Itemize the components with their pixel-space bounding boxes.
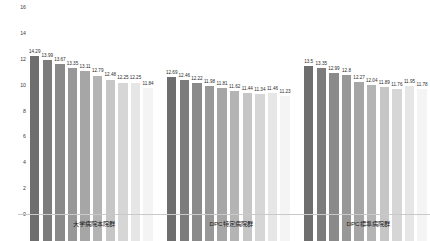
bar-value-label: 11.34 — [254, 88, 265, 93]
bar[interactable] — [143, 88, 152, 241]
bar-value-label: 11.23 — [280, 90, 291, 95]
bar-value-label: 11.84 — [143, 82, 154, 87]
bar-item[interactable]: 11.84 — [143, 26, 152, 241]
bar-value-label: 11.89 — [379, 81, 390, 86]
bar-value-label: 11.95 — [404, 80, 415, 85]
bar-item[interactable]: 12.48 — [106, 26, 115, 241]
bar[interactable] — [367, 85, 376, 241]
bar-item[interactable]: 11.46 — [268, 26, 277, 241]
bar-item[interactable]: 12.22 — [192, 26, 201, 241]
bar-item[interactable]: 13.35 — [68, 26, 77, 241]
bar[interactable] — [417, 89, 426, 241]
bar-item[interactable]: 12.69 — [167, 26, 176, 241]
bar-item[interactable]: 11.62 — [230, 26, 239, 241]
bar-item[interactable]: 12.8 — [342, 26, 351, 241]
bar-value-label: 13.67 — [54, 58, 66, 63]
bar[interactable] — [205, 86, 214, 241]
bar-item[interactable]: 13.67 — [55, 26, 64, 241]
bar[interactable] — [80, 71, 89, 241]
bar-value-label: 12.69 — [166, 71, 178, 76]
bar[interactable] — [68, 68, 77, 241]
bar-value-label: 12.25 — [117, 76, 129, 81]
bar-item[interactable]: 11.81 — [217, 26, 226, 241]
bar-value-label: 12.79 — [92, 69, 104, 74]
bar[interactable] — [329, 73, 338, 241]
group-category-label: 大学病院本院群 — [30, 220, 158, 227]
bar-item[interactable]: 12.25 — [131, 26, 140, 241]
bar-value-label: 13.35 — [316, 62, 328, 67]
bar[interactable] — [217, 88, 226, 241]
bar-item[interactable]: 13.99 — [43, 26, 52, 241]
bar[interactable] — [180, 80, 189, 241]
bar-item[interactable]: 12.46 — [180, 26, 189, 241]
bar[interactable] — [317, 68, 326, 241]
bar-item[interactable]: 13.35 — [317, 26, 326, 241]
bar-item[interactable]: 12.25 — [118, 26, 127, 241]
bar-value-label: 12.25 — [130, 76, 142, 81]
bar-value-label: 14.29 — [29, 50, 41, 55]
bar-item[interactable]: 14.29 — [30, 26, 39, 241]
bar-value-label: 12.27 — [353, 76, 365, 81]
bar[interactable] — [380, 87, 389, 241]
bar[interactable] — [118, 83, 127, 241]
bar-value-label: 11.98 — [204, 80, 215, 85]
bar[interactable] — [192, 83, 201, 241]
bar-value-label: 11.76 — [391, 83, 402, 88]
bar-group: 14.2913.9913.6713.3513.1112.7912.4812.25… — [30, 0, 158, 241]
bar-value-label: 11.46 — [267, 87, 278, 92]
bar[interactable] — [342, 75, 351, 241]
bar-value-label: 13.35 — [67, 62, 79, 67]
plot-area: 14.2913.9913.6713.3513.1112.7912.4812.25… — [18, 0, 430, 241]
bar-group: 13.513.3512.9912.812.2712.0411.8911.7611… — [304, 0, 430, 241]
bar-value-label: 12.48 — [105, 73, 117, 78]
group-category-label: DPC特定病院群 — [167, 220, 295, 227]
bar-item[interactable]: 11.23 — [280, 26, 289, 241]
bar-item[interactable]: 11.95 — [405, 26, 414, 241]
bar[interactable] — [106, 80, 115, 241]
bar-item[interactable]: 12.99 — [329, 26, 338, 241]
bar-item[interactable]: 12.04 — [367, 26, 376, 241]
bar-item[interactable]: 12.27 — [354, 26, 363, 241]
bar-value-label: 13.5 — [304, 60, 313, 65]
bar-value-label: 11.81 — [217, 82, 228, 87]
bar-value-label: 11.62 — [229, 85, 240, 90]
bar-value-label: 13.11 — [80, 65, 91, 70]
bar-value-label: 12.46 — [179, 74, 191, 79]
bar-item[interactable]: 12.79 — [93, 26, 102, 241]
bar-value-label: 12.8 — [342, 69, 351, 74]
bar-value-label: 13.99 — [42, 54, 54, 59]
group-category-label: DPC標準病院群 — [304, 220, 430, 227]
bar[interactable] — [354, 82, 363, 241]
bar[interactable] — [392, 89, 401, 241]
bar[interactable] — [268, 93, 277, 241]
bar[interactable] — [255, 94, 264, 241]
bar-item[interactable]: 11.98 — [205, 26, 214, 241]
bar[interactable] — [230, 91, 239, 241]
bar-item[interactable]: 11.89 — [380, 26, 389, 241]
bar-item[interactable]: 11.44 — [243, 26, 252, 241]
bar[interactable] — [30, 56, 39, 241]
bars-row: 13.513.3512.9912.812.2712.0411.8911.7611… — [304, 0, 430, 241]
bar[interactable] — [243, 93, 252, 241]
bar[interactable] — [167, 77, 176, 241]
bar-item[interactable]: 11.76 — [392, 26, 401, 241]
bar-group: 12.6912.4612.2211.9811.8111.6211.4411.34… — [167, 0, 295, 241]
bar-value-label: 12.04 — [366, 79, 378, 84]
bar[interactable] — [405, 86, 414, 241]
bar-value-label: 12.99 — [328, 67, 340, 72]
bar-item[interactable]: 13.5 — [304, 26, 313, 241]
bars-row: 12.6912.4612.2211.9811.8111.6211.4411.34… — [167, 0, 295, 241]
bar-item[interactable]: 11.78 — [417, 26, 426, 241]
bar-value-label: 11.78 — [417, 83, 428, 88]
bar-value-label: 11.44 — [242, 87, 253, 92]
bar[interactable] — [131, 83, 140, 241]
bar-item[interactable]: 11.34 — [255, 26, 264, 241]
bars-row: 14.2913.9913.6713.3513.1112.7912.4812.25… — [30, 0, 158, 241]
bar-chart: 0246810121416 14.2913.9913.6713.3513.111… — [0, 0, 430, 241]
bar[interactable] — [93, 76, 102, 241]
bar-value-label: 12.22 — [191, 77, 203, 82]
bar-item[interactable]: 13.11 — [80, 26, 89, 241]
axis-baseline — [18, 214, 430, 215]
